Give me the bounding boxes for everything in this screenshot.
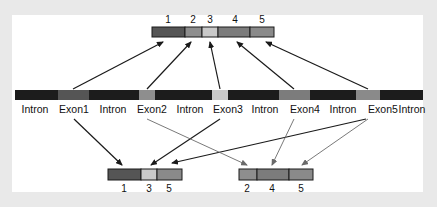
label-intron-2: Intron <box>177 103 204 115</box>
top-seg-5 <box>250 27 274 37</box>
exon3-block <box>212 90 228 100</box>
left-label-5: 5 <box>166 183 172 194</box>
label-exon4: Exon4 <box>290 103 320 115</box>
transcript-top: 1 2 3 4 5 <box>152 14 274 37</box>
arrow-exon5-to-top <box>266 42 368 89</box>
label-exon2: Exon2 <box>137 103 167 115</box>
top-seg-3 <box>202 27 218 37</box>
right-seg-2 <box>239 169 257 180</box>
right-seg-5 <box>289 169 313 180</box>
left-label-1: 1 <box>121 183 127 194</box>
label-exon3: Exon3 <box>213 103 243 115</box>
label-exon1: Exon1 <box>59 103 89 115</box>
gene-labels: Intron Exon1 Intron Exon2 Intron Exon3 I… <box>22 103 426 115</box>
exon5-block <box>356 90 380 100</box>
arrow-exon2-to-top <box>147 42 191 89</box>
top-label-1: 1 <box>165 14 171 25</box>
left-seg-5 <box>157 169 182 180</box>
transcript-bottom-left: 1 3 5 <box>108 169 182 194</box>
arrow-exon4-to-right <box>272 119 294 165</box>
transcript-bottom-right: 2 4 5 <box>239 169 313 194</box>
left-seg-3 <box>141 169 157 180</box>
label-intron-3: Intron <box>252 103 279 115</box>
gene-bar <box>15 90 423 100</box>
arrows-to-top <box>73 42 368 89</box>
top-seg-4 <box>218 27 250 37</box>
top-seg-2 <box>185 27 202 37</box>
label-intron-1: Intron <box>100 103 127 115</box>
label-intron-0: Intron <box>22 103 49 115</box>
arrow-exon1-to-left <box>74 119 122 165</box>
exon4-block <box>279 90 310 100</box>
left-label-3: 3 <box>146 183 152 194</box>
label-intron-5-visible: Intron <box>399 103 426 115</box>
arrow-exon1-to-top <box>73 42 163 89</box>
left-seg-1 <box>108 169 141 180</box>
arrow-exon4-to-top <box>237 42 294 89</box>
label-exon5: Exon5 <box>368 103 398 115</box>
top-label-4: 4 <box>232 14 238 25</box>
right-seg-4 <box>257 169 289 180</box>
top-seg-1 <box>152 27 185 37</box>
top-label-2: 2 <box>190 14 196 25</box>
exon2-block <box>139 90 155 100</box>
right-label-2: 2 <box>244 183 250 194</box>
right-label-4: 4 <box>269 183 275 194</box>
arrow-exon3-to-top <box>210 42 220 89</box>
top-label-3: 3 <box>207 14 213 25</box>
exon1-block <box>58 90 89 100</box>
arrows-to-bottom-left <box>74 119 366 165</box>
right-label-5: 5 <box>298 183 304 194</box>
splicing-diagram: 1 2 3 4 5 Intron Exon1 Intron Exon2 Intr… <box>0 0 437 207</box>
label-intron-4: Intron <box>330 103 357 115</box>
top-label-5: 5 <box>259 14 265 25</box>
